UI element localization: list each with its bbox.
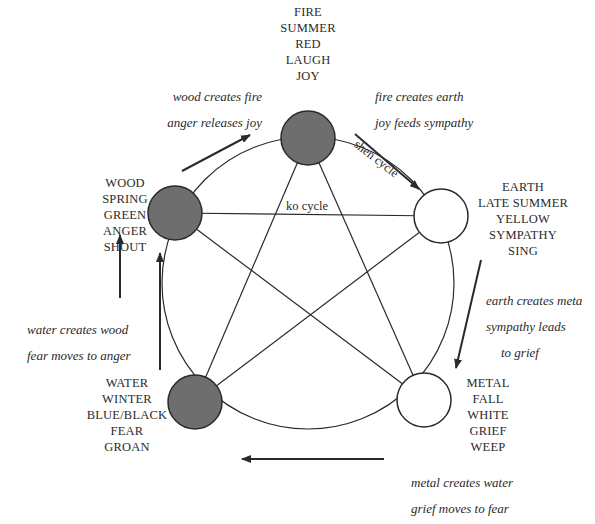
wood-season: SPRING: [90, 191, 160, 207]
wood-color: GREEN: [90, 207, 160, 223]
fire-node: [281, 111, 335, 165]
wood-name: WOOD: [90, 175, 160, 191]
wood-emotion: ANGER: [90, 223, 160, 239]
water-color: BLUE/BLACK: [74, 407, 180, 423]
water-name: WATER: [74, 375, 180, 391]
earth-season: LATE SUMMER: [468, 195, 578, 211]
earth-sound: SING: [468, 243, 578, 259]
note-water-wood: water creates wood fear moves to anger: [27, 317, 131, 369]
earth-name: EARTH: [468, 179, 578, 195]
earth-emotion: SYMPATHY: [468, 227, 578, 243]
ko-line-earth-water: [195, 216, 441, 402]
note-line: earth creates meta: [486, 288, 582, 314]
note-line: anger releases joy: [132, 110, 262, 136]
metal-emotion: GRIEF: [458, 423, 518, 439]
fire-label: FIRE SUMMER RED LAUGH JOY: [268, 4, 348, 84]
note-earth-metal: earth creates meta sympathy leads to gri…: [486, 288, 582, 366]
water-season: WINTER: [74, 391, 180, 407]
note-metal-water: metal creates water grief moves to fear: [411, 470, 513, 522]
metal-node: [397, 373, 451, 427]
metal-season: FALL: [458, 391, 518, 407]
wood-sound: SHOUT: [90, 239, 160, 255]
metal-label: METAL FALL WHITE GRIEF WEEP: [458, 375, 518, 455]
ko-line-water-fire: [195, 138, 308, 402]
water-label: WATER WINTER BLUE/BLACK FEAR GROAN: [74, 375, 180, 455]
note-line: water creates wood: [27, 317, 131, 343]
metal-name: METAL: [458, 375, 518, 391]
fire-season: SUMMER: [268, 20, 348, 36]
note-line: sympathy leads: [486, 314, 582, 340]
earth-color: YELLOW: [468, 211, 578, 227]
note-line: joy feeds sympathy: [375, 110, 473, 136]
fire-name: FIRE: [268, 4, 348, 20]
note-line: grief moves to fear: [411, 496, 513, 522]
arrow-wood-to-fire: [182, 135, 250, 171]
note-line: metal creates water: [411, 470, 513, 496]
note-line: to grief: [486, 340, 582, 366]
note-line: fear moves to anger: [27, 343, 131, 369]
earth-label: EARTH LATE SUMMER YELLOW SYMPATHY SING: [468, 179, 578, 259]
ko-line-metal-wood: [175, 213, 424, 400]
wood-label: WOOD SPRING GREEN ANGER SHOUT: [90, 175, 160, 255]
note-line: wood creates fire: [132, 84, 262, 110]
five-elements-diagram: FIRE SUMMER RED LAUGH JOY EARTH LATE SUM…: [0, 0, 595, 524]
fire-emotion: JOY: [268, 68, 348, 84]
water-emotion: FEAR: [74, 423, 180, 439]
ko-cycle-label: ko cycle: [286, 199, 328, 214]
arrow-earth-to-metal: [456, 260, 481, 368]
water-sound: GROAN: [74, 439, 180, 455]
metal-color: WHITE: [458, 407, 518, 423]
element-nodes: [148, 111, 468, 429]
note-line: fire creates earth: [375, 84, 473, 110]
metal-sound: WEEP: [458, 439, 518, 455]
ko-cycle-star: [175, 138, 441, 402]
note-fire-earth: fire creates earth joy feeds sympathy: [375, 84, 473, 136]
fire-color: RED: [268, 36, 348, 52]
fire-sound: LAUGH: [268, 52, 348, 68]
note-wood-fire: wood creates fire anger releases joy: [132, 84, 262, 136]
earth-node: [414, 189, 468, 243]
